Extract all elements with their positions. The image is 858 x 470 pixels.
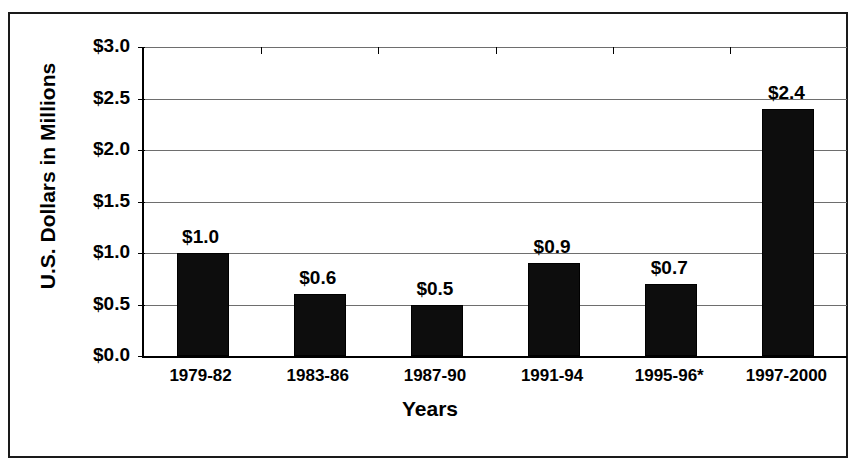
x-axis-tick-label: 1979-82 — [136, 366, 266, 386]
y-axis-title: U.S. Dollars in Millions — [36, 46, 60, 306]
y-axis-tick-label: $2.5 — [60, 87, 130, 109]
bar — [528, 263, 580, 356]
x-axis-title: Years — [10, 397, 850, 421]
bar — [294, 294, 346, 356]
x-axis-tick-label: 1991-94 — [487, 366, 617, 386]
y-axis-tick — [138, 99, 145, 100]
y-axis-tick-label: $1.5 — [60, 190, 130, 212]
bar-value-label: $2.4 — [741, 82, 831, 104]
chart-frame: U.S. Dollars in Millions $0.0$0.5$1.0$1.… — [8, 12, 848, 458]
gridline — [144, 305, 847, 306]
bar-value-label: $0.9 — [507, 236, 597, 258]
x-axis-tick — [261, 47, 262, 54]
gridline — [144, 150, 847, 151]
y-axis-tick-label: $1.0 — [60, 241, 130, 263]
bar — [645, 284, 697, 356]
y-axis-tick-label: $2.0 — [60, 138, 130, 160]
plot-area: $0.0$0.5$1.0$1.5$2.0$2.5$3.0$1.0$0.6$0.5… — [142, 35, 845, 356]
gridline — [144, 202, 847, 203]
x-axis-tick-label: 1997-2000 — [721, 366, 851, 386]
bar-value-label: $0.6 — [273, 267, 363, 289]
x-axis-tick-label: 1987-90 — [370, 366, 500, 386]
gridline — [144, 253, 847, 254]
x-axis-tick — [378, 47, 379, 54]
bar — [411, 305, 463, 357]
bar — [177, 253, 229, 356]
y-axis-tick-label: $3.0 — [60, 35, 130, 57]
bar — [762, 109, 814, 356]
x-axis-tick — [613, 47, 614, 54]
y-axis-tick — [138, 150, 145, 151]
y-axis-tick — [138, 47, 145, 48]
y-axis-tick — [138, 305, 145, 306]
y-axis-tick — [138, 202, 145, 203]
x-axis-tick — [496, 47, 497, 54]
bar-value-label: $0.7 — [624, 257, 714, 279]
x-axis-tick — [730, 47, 731, 54]
bar-value-label: $0.5 — [390, 278, 480, 300]
y-axis-tick — [138, 253, 145, 254]
x-axis-tick-label: 1995-96* — [604, 366, 734, 386]
x-axis-tick-label: 1983-86 — [253, 366, 383, 386]
y-axis-tick-label: $0.5 — [60, 293, 130, 315]
bar-value-label: $1.0 — [156, 226, 246, 248]
y-axis-tick — [138, 356, 145, 357]
y-axis-tick-label: $0.0 — [60, 344, 130, 366]
